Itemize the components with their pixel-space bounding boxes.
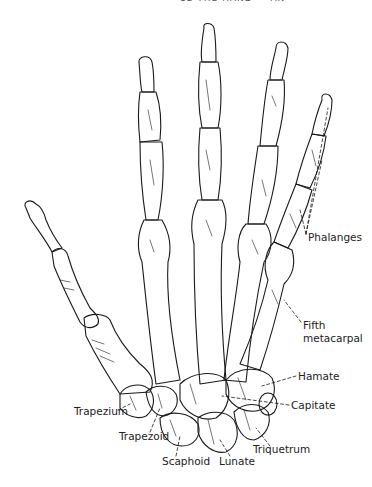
hand-bones-illustration — [0, 0, 372, 487]
label-trapezoid: Trapezoid — [119, 430, 169, 442]
index-finger-bones — [138, 57, 180, 384]
label-fifth-metacarpal-line1: Fifth — [303, 319, 325, 331]
label-trapezium: Trapezium — [74, 405, 128, 417]
label-capitate: Capitate — [291, 399, 335, 411]
label-phalanges: Phalanges — [308, 231, 362, 243]
label-scaphoid: Scaphoid — [162, 455, 210, 467]
label-lunate: Lunate — [219, 455, 255, 467]
middle-finger-bones — [192, 24, 226, 385]
label-hamate: Hamate — [298, 370, 340, 382]
label-triquetrum: Triquetrum — [253, 443, 310, 455]
label-fifth-metacarpal-line2: metacarpal — [303, 332, 363, 344]
ring-finger-bones — [224, 42, 288, 382]
thumb-bones — [25, 201, 152, 394]
